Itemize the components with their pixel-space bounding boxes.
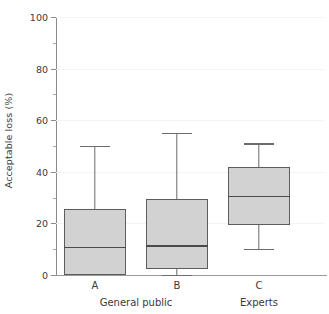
lower-whisker-line: [258, 225, 259, 249]
x-tick-label-a: A: [92, 280, 99, 291]
x-tick-label-b: B: [174, 280, 181, 291]
y-tick-label: 100: [30, 12, 48, 23]
upper-whisker-cap: [244, 143, 274, 144]
x-group-label: General public: [100, 297, 173, 308]
median-line: [146, 245, 208, 247]
y-tick-label: 20: [36, 218, 48, 229]
plot-area: [56, 17, 324, 275]
lower-whisker-cap: [162, 275, 192, 276]
box-iqr[interactable]: [64, 209, 126, 275]
box-plot-group-c[interactable]: [228, 17, 290, 275]
upper-whisker-line: [176, 133, 177, 199]
upper-whisker-cap: [80, 146, 110, 147]
y-tick-label: 60: [36, 115, 48, 126]
box-plot-figure: Acceptable loss (%) 020406080100 ABCGene…: [0, 0, 329, 314]
upper-whisker-cap: [162, 133, 192, 134]
y-tick-label: 0: [42, 270, 48, 281]
box-iqr[interactable]: [146, 199, 208, 269]
median-line: [64, 247, 126, 249]
box-plot-group-b[interactable]: [146, 17, 208, 275]
y-axis-label: Acceptable loss (%): [0, 0, 18, 280]
y-axis-label-text: Acceptable loss (%): [4, 92, 15, 187]
y-tick-label: 80: [36, 63, 48, 74]
x-group-label: Experts: [240, 297, 278, 308]
upper-whisker-line: [258, 143, 259, 167]
y-tick-label: 40: [36, 166, 48, 177]
median-line: [228, 196, 290, 198]
x-tick-label-c: C: [256, 280, 263, 291]
upper-whisker-line: [94, 146, 95, 209]
lower-whisker-cap: [244, 249, 274, 250]
box-plot-group-a[interactable]: [64, 17, 126, 275]
y-tick-major: [51, 275, 56, 276]
